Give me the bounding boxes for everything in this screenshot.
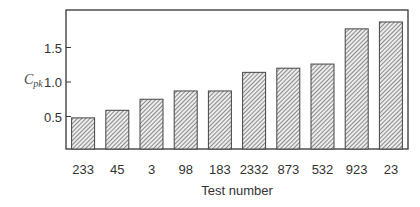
- bar-532: [311, 64, 334, 149]
- y-tick-label: 1.5: [44, 41, 62, 56]
- bar-98: [174, 91, 197, 149]
- x-tick-label: 233: [72, 162, 94, 177]
- y-axis-title: Cpk: [24, 72, 43, 89]
- x-tick-label: 45: [110, 162, 124, 177]
- x-axis-labels: 23345398183233287353292323: [72, 162, 398, 177]
- x-tick-label: 873: [277, 162, 299, 177]
- y-tick-label: 1.0: [44, 75, 62, 90]
- bar-3: [140, 99, 163, 149]
- y-axis: 0.51.01.5: [44, 41, 71, 125]
- bar-45: [106, 110, 129, 149]
- y-tick-label: 0.5: [44, 110, 62, 125]
- bar-233: [72, 118, 95, 149]
- bar-183: [208, 91, 231, 149]
- x-axis-title: Test number: [201, 183, 273, 198]
- bar-23: [379, 22, 402, 149]
- x-tick-label: 532: [312, 162, 334, 177]
- bar-923: [345, 29, 368, 149]
- x-tick-label: 923: [346, 162, 368, 177]
- bar-873: [277, 68, 300, 149]
- bars: [72, 22, 403, 149]
- x-tick-label: 183: [209, 162, 231, 177]
- x-tick-label: 3: [148, 162, 155, 177]
- x-tick-label: 2332: [240, 162, 269, 177]
- bar-2332: [243, 72, 266, 149]
- bar-chart: 0.51.01.5 23345398183233287353292323 Cpk…: [0, 0, 420, 207]
- x-tick-label: 23: [384, 162, 398, 177]
- x-tick-label: 98: [178, 162, 192, 177]
